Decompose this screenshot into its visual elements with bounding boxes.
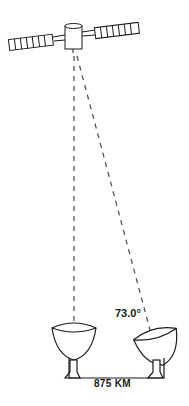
- dish-antenna-icon: [52, 323, 96, 378]
- signal-path-right: [77, 56, 150, 330]
- satellite-icon: [8, 22, 139, 53]
- dish-antenna-icon: [132, 324, 184, 378]
- elevation-angle-label: 73.0°: [115, 307, 141, 319]
- diagram-canvas: [0, 0, 189, 406]
- baseline-distance-label: 875 KM: [94, 378, 131, 389]
